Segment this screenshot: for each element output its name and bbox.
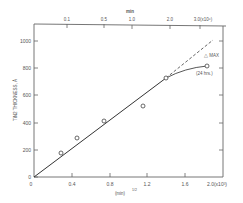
data-point	[102, 119, 106, 123]
x-axis-tick-labels: 0 0.4 0.8 1.2 1.6 2.0(x10³)	[30, 181, 228, 187]
x-tick-label: 0.4	[69, 181, 76, 187]
chart: 0 200 400 600 800 1000 TiN2 THICKNESS, Å…	[0, 0, 243, 203]
data-point	[205, 64, 209, 68]
y-tick-label: 1000	[20, 38, 31, 44]
top-tick-label: 1.0	[129, 17, 136, 22]
data-point	[164, 76, 168, 80]
y-tick-label: 0	[28, 174, 31, 180]
data-point	[75, 136, 79, 140]
x-tick-label: 1.2	[144, 181, 151, 187]
y-tick-label: 200	[23, 147, 32, 153]
top-tick-label: 3.0(x10⁶)	[194, 17, 213, 22]
data-point	[59, 151, 63, 155]
annotation-24hrs: (24 hrs.)	[196, 71, 213, 76]
linear-fit-line	[34, 78, 166, 177]
top-tick-label: 0.1	[64, 17, 71, 22]
x-axis-label-exponent: 1/2	[132, 188, 137, 192]
y-tick-label: 800	[23, 65, 32, 71]
annotation-max: △ MAX	[204, 53, 219, 58]
y-axis-ticks	[34, 41, 223, 177]
data-point	[141, 104, 145, 108]
top-tick-label: 0.5	[101, 17, 108, 22]
top-axis-label: min	[126, 9, 134, 14]
y-axis-label: TiN2 THICKNESS, Å	[12, 79, 18, 121]
y-tick-label: 600	[23, 92, 32, 98]
x-tick-label: 1.6	[182, 181, 189, 187]
x-tick-label: 2.0(x10³)	[207, 181, 227, 187]
y-tick-label: 400	[23, 120, 32, 126]
y-axis-tick-labels: 0 200 400 600 800 1000	[20, 38, 31, 180]
top-axis-tick-labels: 0.1 0.5 1.0 2.0 3.0(x10⁶)	[64, 17, 213, 22]
x-tick-label: 0	[30, 181, 33, 187]
x-axis-ticks	[72, 173, 185, 177]
x-tick-label: 0.8	[107, 181, 114, 187]
x-axis-label: (min)	[115, 191, 126, 196]
top-tick-label: 2.0	[167, 17, 174, 22]
